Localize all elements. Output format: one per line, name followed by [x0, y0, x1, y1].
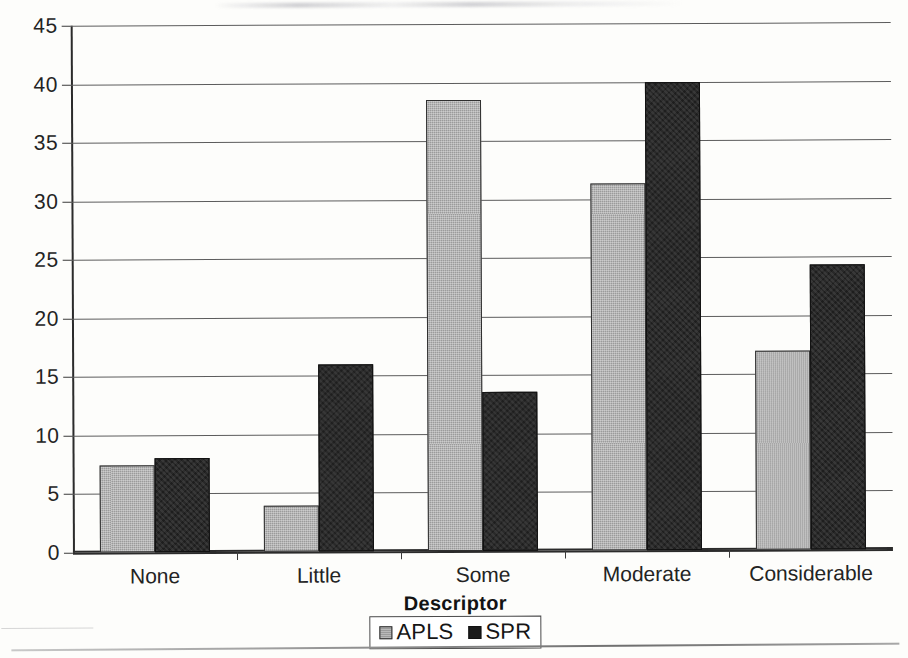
y-axis-tick-label: 5: [47, 482, 59, 506]
x-axis-tick-label: None: [130, 564, 180, 588]
bar-apls-moderate: [590, 184, 647, 551]
x-axis-tick-label: Moderate: [603, 562, 692, 586]
y-axis-tick: [62, 201, 71, 202]
bar-apls-some: [426, 100, 483, 551]
gray-square-icon: [379, 626, 392, 639]
bar-group: [754, 22, 866, 549]
bar-apls-little: [264, 506, 319, 552]
y-axis-tick: [62, 26, 71, 27]
black-square-icon: [468, 625, 481, 638]
category-bands: NoneLittleSomeModerateConsiderable: [71, 22, 893, 553]
legend-item-spr: SPR: [468, 619, 531, 645]
bar-spr-some: [482, 391, 538, 551]
y-axis-tick-label: 0: [48, 541, 60, 565]
x-axis-tick: [729, 550, 730, 558]
page-edge-line-secondary: [1, 628, 93, 629]
scan-smudge-artifact: [214, 1, 684, 8]
bar-spr-considerable: [810, 265, 866, 550]
y-axis-tick: [62, 143, 71, 144]
bar-group: [98, 25, 210, 552]
y-axis-tick: [62, 84, 71, 85]
legend-label-apls: APLS: [396, 619, 453, 645]
x-axis-tick: [237, 552, 238, 560]
bar-chart-plot-area: 051015202530354045 NoneLittleSomeModerat…: [71, 22, 893, 553]
y-axis-tick: [63, 260, 72, 261]
bar-apls-considerable: [755, 350, 811, 549]
chart-legend: APLS SPR: [369, 616, 541, 650]
y-axis-tick-label: 30: [34, 189, 58, 213]
x-axis-tick: [565, 551, 566, 559]
x-axis-tick: [401, 551, 402, 559]
bar-apls-none: [100, 466, 155, 553]
bar-spr-none: [155, 458, 210, 552]
x-axis-tick-label: Some: [456, 563, 511, 587]
legend-item-apls: APLS: [379, 619, 453, 645]
x-axis-tick-label: Considerable: [749, 561, 873, 586]
x-axis-title: Descriptor: [1, 590, 908, 617]
bar-group: [590, 23, 702, 550]
bar-group: [262, 24, 374, 551]
y-axis-tick-label: 20: [35, 306, 59, 330]
y-axis-tick-label: 40: [34, 72, 58, 96]
y-axis-tick-label: 35: [34, 131, 58, 155]
category-band: None: [71, 25, 237, 553]
x-axis-tick-label: Little: [297, 563, 341, 587]
bar-spr-moderate: [645, 81, 702, 550]
y-axis-tick-label: 45: [33, 14, 57, 38]
category-band: Considerable: [727, 22, 893, 550]
legend-label-spr: SPR: [485, 619, 531, 645]
category-band: Moderate: [563, 23, 729, 551]
y-axis-tick: [64, 553, 73, 554]
category-band: Some: [399, 24, 565, 552]
bar-spr-little: [318, 364, 374, 552]
y-axis-tick: [63, 318, 72, 319]
y-axis-tick-label: 10: [35, 424, 59, 448]
category-band: Little: [235, 24, 401, 552]
chart-scan-page: 051015202530354045 NoneLittleSomeModerat…: [0, 0, 908, 658]
y-axis-tick-label: 15: [35, 365, 59, 389]
y-axis-tick: [63, 377, 72, 378]
y-axis-tick: [64, 494, 73, 495]
y-axis-tick: [63, 436, 72, 437]
y-axis-tick-label: 25: [34, 248, 58, 272]
bar-group: [426, 24, 538, 551]
